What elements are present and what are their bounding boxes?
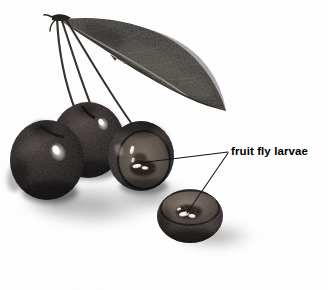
annotation-label-fruit-fly-larvae: fruit fly larvae [231,145,308,158]
cherry-fruit-fly-figure: fruit fly larvae [0,0,328,290]
